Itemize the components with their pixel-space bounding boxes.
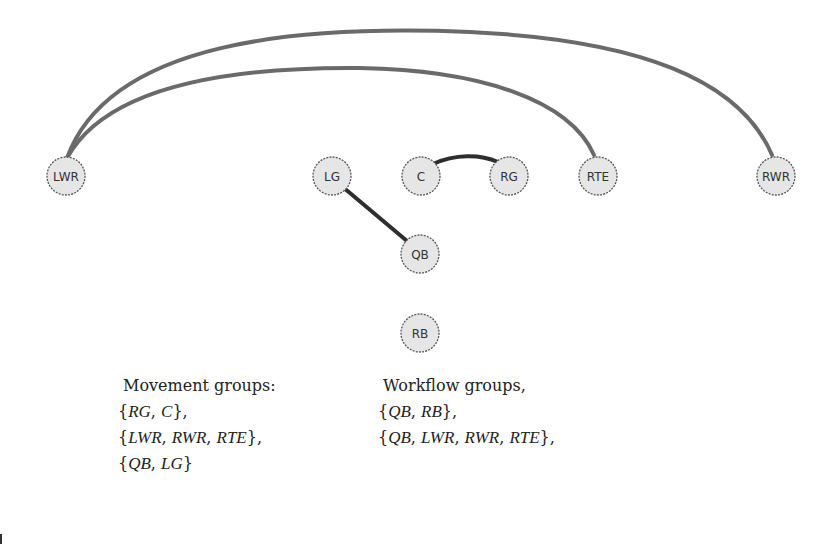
set-member: RWR: [172, 428, 207, 447]
node-label: QB: [411, 248, 429, 262]
node-c: C: [402, 157, 440, 195]
set-member: RTE: [509, 428, 539, 447]
set-member: QB: [128, 454, 151, 473]
set-member: QB: [388, 428, 411, 447]
set-member: LWR: [421, 428, 454, 447]
workflow-set-2: {QB, LWR, RWR, RTE},: [378, 425, 555, 451]
set-member: QB: [388, 402, 411, 421]
node-label: RB: [412, 327, 429, 341]
node-label: RWR: [762, 170, 790, 184]
set-member: LG: [161, 454, 183, 473]
node-rte: RTE: [579, 157, 617, 195]
edge-lwr-rwr: [67, 31, 772, 158]
page-edge-mark: [0, 534, 2, 544]
set-member: RTE: [217, 428, 247, 447]
node-lwr: LWR: [47, 157, 85, 195]
movement-groups: Movement groups: {RG, C},{LWR, RWR, RTE}…: [118, 373, 276, 477]
edge-lwr-rte: [67, 68, 594, 158]
node-rg: RG: [490, 157, 528, 195]
node-label: RG: [500, 170, 518, 184]
node-qb: QB: [401, 235, 439, 273]
nodes-layer: LWRLGCRGRTERWRQBRB: [47, 157, 795, 352]
set-member: C: [161, 402, 172, 421]
node-label: RTE: [587, 170, 609, 184]
movement-groups-title: Movement groups:: [118, 373, 276, 399]
workflow-groups-title: Workflow groups,: [378, 373, 555, 399]
workflow-groups: Workflow groups, {QB, RB},{QB, LWR, RWR,…: [378, 373, 555, 451]
node-lg: LG: [313, 157, 351, 195]
formation-graph: LWRLGCRGRTERWRQBRB: [0, 0, 839, 360]
workflow-set-1: {QB, RB},: [378, 399, 555, 425]
edge-lg-qb: [344, 188, 407, 241]
node-rb: RB: [401, 314, 439, 352]
node-label: C: [417, 170, 425, 184]
node-rwr: RWR: [757, 157, 795, 195]
set-member: LWR: [128, 428, 161, 447]
set-member: RWR: [465, 428, 500, 447]
set-member: RG: [128, 402, 151, 421]
edge-c-rg: [433, 156, 498, 164]
edges-layer: [67, 31, 772, 241]
workflow-groups-sets: {QB, RB},{QB, LWR, RWR, RTE},: [378, 399, 555, 451]
node-label: LWR: [53, 170, 79, 184]
node-label: LG: [324, 170, 340, 184]
set-member: RB: [421, 402, 442, 421]
movement-set-3: {QB, LG}: [118, 451, 276, 477]
movement-set-2: {LWR, RWR, RTE},: [118, 425, 276, 451]
movement-set-1: {RG, C},: [118, 399, 276, 425]
movement-groups-sets: {RG, C},{LWR, RWR, RTE},{QB, LG}: [118, 399, 276, 477]
